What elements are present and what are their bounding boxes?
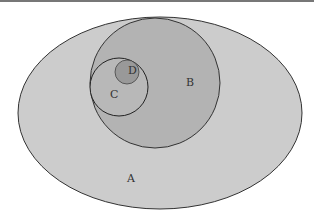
label-a: A bbox=[126, 172, 136, 185]
euler-diagram: D C B A bbox=[0, 0, 314, 221]
label-c: C bbox=[110, 88, 118, 101]
label-b: B bbox=[186, 76, 194, 89]
label-d: D bbox=[128, 64, 137, 77]
